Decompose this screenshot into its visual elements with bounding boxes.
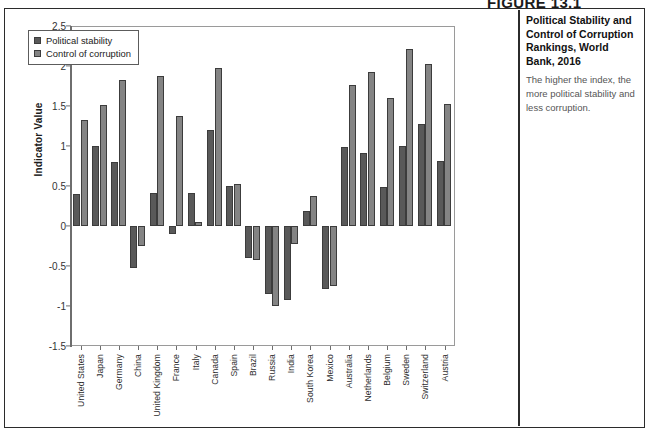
bar: [100, 105, 107, 226]
bar-group: [358, 26, 377, 346]
x-axis-label-cell: Switzerland: [416, 352, 435, 434]
x-axis-label-cell: Spain: [224, 352, 243, 434]
bar: [291, 226, 298, 244]
bar-group: [263, 26, 282, 346]
x-axis-label-cell: United Kingdom: [148, 352, 167, 434]
x-axis-label-cell: Australia: [339, 352, 358, 434]
x-axis-tick: [109, 346, 128, 351]
bar: [130, 226, 137, 268]
x-axis-tick: [128, 346, 147, 351]
x-axis-label: Austria: [440, 354, 450, 381]
x-axis-label-cell: Netherlands: [358, 352, 377, 434]
bar-group: [416, 26, 435, 346]
bar: [425, 64, 432, 226]
x-axis-tick: [243, 346, 262, 351]
y-axis-tick-label: 0.5: [52, 181, 66, 192]
x-axis-tick: [435, 346, 454, 351]
x-axis-tick: [397, 346, 416, 351]
bar: [360, 153, 367, 226]
legend-label: Political stability: [46, 35, 112, 46]
x-axis-tick: [224, 346, 243, 351]
x-axis-tick: [205, 346, 224, 351]
x-axis-label-cell: Belgium: [378, 352, 397, 434]
x-axis-tick-mark: [387, 346, 388, 350]
bar-group: [435, 26, 454, 346]
legend-swatch-icon: [34, 37, 41, 44]
bar: [272, 226, 279, 306]
x-axis-label: France: [171, 354, 181, 381]
bar-group: [282, 26, 301, 346]
bar: [380, 187, 387, 226]
x-axis-label-cell: Canada: [205, 352, 224, 434]
x-axis-tick: [263, 346, 282, 351]
x-axis-tick: [339, 346, 358, 351]
bar-group: [397, 26, 416, 346]
x-axis-label: Mexico: [325, 354, 335, 382]
bar-group: [71, 26, 90, 346]
x-axis-tick-mark: [349, 346, 350, 350]
x-axis-label: Spain: [229, 354, 239, 376]
bar: [303, 211, 310, 226]
x-axis-label: South Korea: [305, 354, 315, 403]
x-axis-label: Sweden: [401, 354, 411, 386]
x-axis-label: Russia: [267, 354, 277, 381]
bars-layer: [71, 26, 454, 346]
bar: [73, 194, 80, 226]
x-axis-label: Switzerland: [420, 354, 430, 400]
bar-group: [320, 26, 339, 346]
x-axis-labels: United StatesJapanGermanyChinaUnited Kin…: [71, 352, 454, 434]
y-axis-tick-label: -1.5: [49, 341, 66, 352]
x-axis-label-cell: Germany: [109, 352, 128, 434]
bar-group: [339, 26, 358, 346]
figure-root: FIGURE 13.1 Political Stability and Cont…: [0, 0, 649, 434]
y-axis-tick-label: -1: [57, 301, 66, 312]
bar: [368, 72, 375, 226]
bar: [188, 193, 195, 226]
x-axis-tick-mark: [368, 346, 369, 350]
x-axis-label: Brazil: [248, 354, 258, 376]
bar: [330, 226, 337, 286]
x-axis-tick: [416, 346, 435, 351]
x-axis-tick: [90, 346, 109, 351]
x-axis-label-cell: France: [167, 352, 186, 434]
bar: [207, 130, 214, 226]
x-axis-tick-mark: [310, 346, 311, 350]
x-axis-ticks: [71, 346, 454, 351]
x-axis-tick-mark: [176, 346, 177, 350]
bar-group: [243, 26, 262, 346]
bar: [399, 146, 406, 226]
x-axis-label-cell: Austria: [435, 352, 454, 434]
x-axis-tick: [320, 346, 339, 351]
bar: [349, 85, 356, 226]
x-axis-label-cell: China: [128, 352, 147, 434]
bar: [310, 196, 317, 226]
x-axis-label-cell: Brazil: [243, 352, 262, 434]
bar: [169, 226, 176, 234]
bar: [406, 49, 413, 226]
x-axis-tick-mark: [81, 346, 82, 350]
x-axis-label-cell: Mexico: [320, 352, 339, 434]
legend-swatch-icon: [34, 50, 41, 57]
y-axis-ticks: 2.521.510.50-0.5-1-1.5: [12, 14, 66, 414]
bar-group: [167, 26, 186, 346]
bar: [253, 226, 260, 260]
bar: [234, 184, 241, 226]
x-axis-tick-mark: [138, 346, 139, 350]
x-axis-label: United Kingdom: [152, 354, 162, 417]
bar-group: [224, 26, 243, 346]
x-axis-label: Belgium: [382, 354, 392, 386]
chart-legend: Political stability Control of corruptio…: [28, 30, 139, 65]
bar-group: [128, 26, 147, 346]
x-axis-label: Germany: [114, 354, 124, 390]
x-axis-tick: [167, 346, 186, 351]
x-axis-label-cell: India: [282, 352, 301, 434]
bar-group: [186, 26, 205, 346]
bar-group: [109, 26, 128, 346]
bar: [92, 146, 99, 226]
x-axis-tick: [301, 346, 320, 351]
legend-label: Control of corruption: [46, 48, 131, 59]
bar: [157, 76, 164, 226]
bar: [284, 226, 291, 300]
x-axis-label: Netherlands: [363, 354, 373, 401]
x-axis-tick-mark: [215, 346, 216, 350]
